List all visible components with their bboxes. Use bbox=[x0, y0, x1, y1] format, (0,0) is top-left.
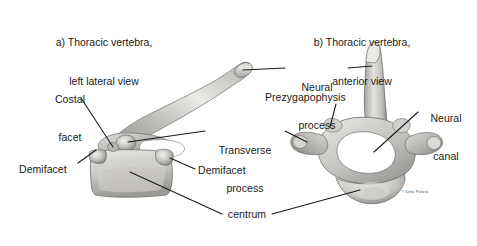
label-costal-facet-line1: Costal bbox=[40, 93, 100, 106]
label-transverse-process-line2: process bbox=[206, 182, 284, 195]
label-neural-canal-line1: Neural bbox=[420, 112, 472, 125]
label-costal-facet: Costal facet bbox=[40, 68, 100, 168]
label-neural-process-line2: process bbox=[286, 119, 348, 132]
label-transverse-process: Transverse process bbox=[206, 119, 284, 219]
copyright-credit: © Dino Pulerà bbox=[401, 189, 428, 194]
anatomy-figure: a) Thoracic vertebra, left lateral view … bbox=[0, 0, 477, 246]
label-demifacet-left: Demifacet bbox=[19, 163, 67, 176]
label-transverse-process-line1: Transverse bbox=[206, 144, 284, 157]
label-neural-process: Neural process bbox=[286, 56, 348, 156]
panel-b-title-line1: b) Thoracic vertebra, bbox=[282, 36, 442, 49]
label-prezygapophysis: Prezygapophysis bbox=[265, 91, 346, 104]
leader-centrum-b bbox=[272, 190, 360, 214]
label-costal-facet-line2: facet bbox=[40, 131, 100, 144]
label-centrum: centrum bbox=[222, 208, 272, 221]
panel-a-title-line1: a) Thoracic vertebra, bbox=[24, 36, 184, 49]
label-neural-canal: Neural canal bbox=[420, 87, 472, 187]
leader-demifacet-right bbox=[170, 158, 195, 169]
label-neural-canal-line2: canal bbox=[420, 150, 472, 163]
